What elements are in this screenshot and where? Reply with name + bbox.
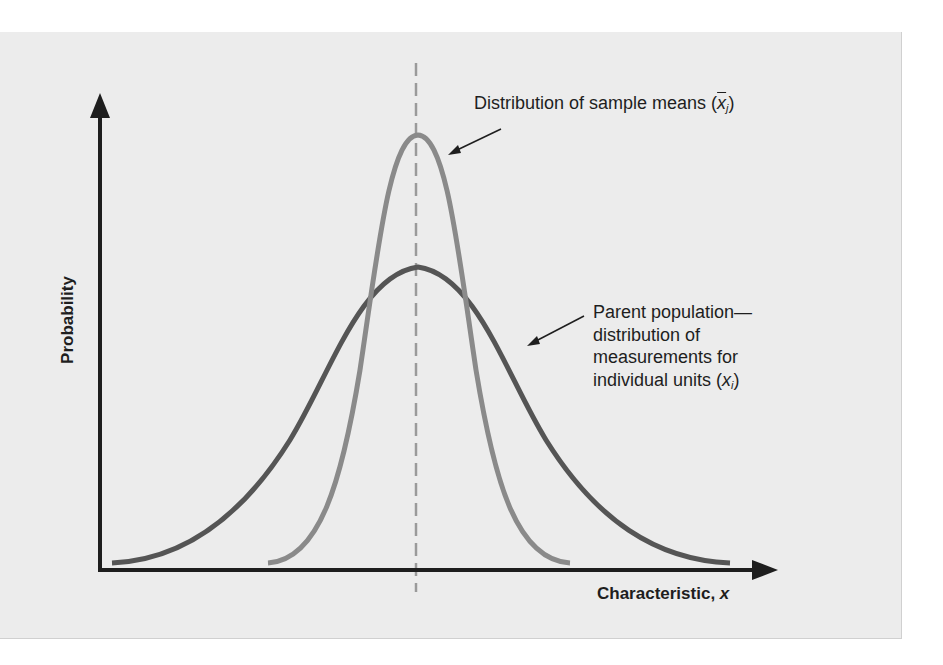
x-axis-arrowhead-icon <box>752 560 778 580</box>
parent-population-line4-text: individual units ( <box>593 370 722 390</box>
sample-means-curve <box>268 135 570 563</box>
distribution-chart <box>0 0 943 665</box>
parent-population-line1: Parent population— <box>593 301 752 324</box>
parent-population-symbol: x <box>722 370 731 390</box>
y-axis-arrowhead-icon <box>90 93 110 118</box>
sample-means-annotation: Distribution of sample means (xj) <box>474 92 735 120</box>
parent-population-line3: measurements for <box>593 346 752 369</box>
parent-population-close: ) <box>734 370 740 390</box>
x-axis-label: Characteristic, x <box>597 584 729 604</box>
parent-population-pointer-arrowhead-icon <box>527 336 540 346</box>
sample-means-symbol: x <box>717 93 726 113</box>
sample-means-pointer <box>455 129 501 151</box>
parent-population-line2: distribution of <box>593 324 752 347</box>
sample-means-close: ) <box>729 93 735 113</box>
x-axis-label-text: Characteristic, <box>597 584 720 603</box>
y-axis-label: Probability <box>58 276 78 364</box>
parent-population-line4: individual units (xi) <box>593 369 752 397</box>
x-axis-label-var: x <box>720 584 729 603</box>
sample-means-pointer-arrowhead-icon <box>448 145 461 155</box>
parent-population-annotation: Parent population— distribution of measu… <box>593 301 752 396</box>
sample-means-text: Distribution of sample means ( <box>474 93 717 113</box>
parent-population-pointer <box>534 316 584 342</box>
